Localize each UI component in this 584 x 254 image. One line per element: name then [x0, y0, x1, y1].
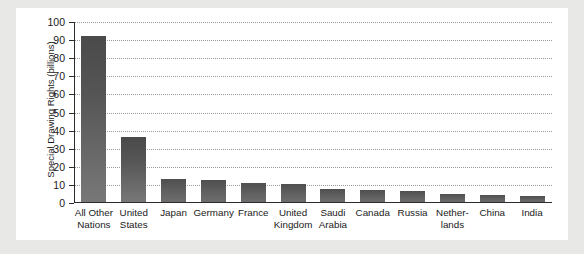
x-axis-tick-label-line: United — [114, 207, 154, 219]
x-axis-tick-label: Japan — [154, 207, 194, 219]
x-axis-tick-label: All OtherNations — [74, 207, 114, 230]
x-axis-tick-label: Nether-lands — [433, 207, 473, 230]
chart-plot-card: Special Drawing Rights (billions) 100908… — [16, 8, 568, 240]
bar — [81, 36, 106, 203]
y-axis-tick-label: 30 — [53, 143, 65, 155]
x-axis-line — [74, 202, 552, 203]
x-axis-tick-label-line: Arabia — [313, 219, 353, 231]
x-axis-tick-label: Russia — [393, 207, 433, 219]
chart-figure: Special Drawing Rights (billions) 100908… — [0, 0, 584, 254]
x-axis-tick-label: UnitedStates — [114, 207, 154, 230]
x-axis-tick-label-line: lands — [433, 219, 473, 231]
x-axis-tick-label-line: Japan — [154, 207, 194, 219]
y-axis-tick-label: 80 — [53, 52, 65, 64]
bar — [121, 137, 146, 203]
x-axis-tick-label: UnitedKingdom — [273, 207, 313, 230]
x-axis-tick-label-line: Russia — [393, 207, 433, 219]
x-axis-tick-label-line: Nations — [74, 219, 114, 231]
x-axis-tick-label: China — [472, 207, 512, 219]
x-axis-tick-label: India — [512, 207, 552, 219]
x-axis-tick-label-line: States — [114, 219, 154, 231]
bars-group — [74, 22, 552, 203]
bar — [281, 184, 306, 203]
x-axis-tick-label-line: Canada — [353, 207, 393, 219]
x-axis-labels-group: All OtherNationsUnitedStatesJapanGermany… — [74, 207, 552, 241]
x-axis-tick-label-line: India — [512, 207, 552, 219]
x-axis-tick-label: France — [233, 207, 273, 219]
y-axis-tick-label: 20 — [53, 161, 65, 173]
x-axis-tick-label-line: Kingdom — [273, 219, 313, 231]
y-axis-tick-label: 40 — [53, 125, 65, 137]
x-axis-tick-label-line: China — [472, 207, 512, 219]
x-axis-tick-label-line: Saudi — [313, 207, 353, 219]
x-axis-tick-label: Canada — [353, 207, 393, 219]
bar — [320, 189, 345, 203]
x-axis-tick-label-line: Nether- — [433, 207, 473, 219]
x-axis-tick-label: Germany — [194, 207, 234, 219]
y-axis-tick-label: 10 — [53, 179, 65, 191]
x-axis-tick-label-line: Germany — [194, 207, 234, 219]
y-axis-tick-label: 90 — [53, 34, 65, 46]
bar — [241, 183, 266, 203]
y-axis-tick-label: 60 — [53, 88, 65, 100]
y-axis-tick — [69, 203, 74, 204]
bar — [201, 180, 226, 203]
x-axis-tick-label-line: France — [233, 207, 273, 219]
y-axis-tick-label: 100 — [47, 16, 65, 28]
x-axis-tick-label-line: United — [273, 207, 313, 219]
plot-area: 1009080706050403020100 — [74, 22, 552, 203]
x-axis-tick-label: SaudiArabia — [313, 207, 353, 230]
x-axis-tick-label-line: All Other — [74, 207, 114, 219]
y-axis-tick-label: 0 — [59, 197, 65, 209]
y-axis-tick-label: 70 — [53, 70, 65, 82]
y-axis-tick-label: 50 — [53, 107, 65, 119]
bar — [161, 179, 186, 203]
